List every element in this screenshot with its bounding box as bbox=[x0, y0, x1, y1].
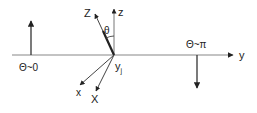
X-axis-line bbox=[96, 55, 114, 91]
Z-axis-label: Z bbox=[84, 7, 91, 19]
z-axis-label: z bbox=[118, 6, 124, 18]
right-state-label: Θ~π bbox=[186, 39, 207, 50]
X-axis-label: X bbox=[91, 93, 99, 105]
x-axis-line bbox=[80, 55, 114, 85]
angle-arc bbox=[106, 36, 114, 38]
x-axis-label: x bbox=[76, 87, 81, 98]
left-state-label: Θ~0 bbox=[19, 62, 39, 73]
angle-label: θ bbox=[104, 25, 110, 36]
origin-label: yj bbox=[115, 60, 123, 75]
rotation-diagram: y Θ~0 Θ~π z Z θ x X yj bbox=[0, 0, 257, 113]
y-axis-label: y bbox=[239, 49, 245, 61]
